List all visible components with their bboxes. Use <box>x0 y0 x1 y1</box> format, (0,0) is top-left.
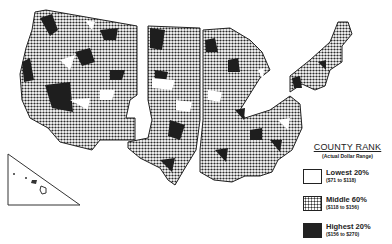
northeast-region <box>290 22 352 92</box>
legend-item-middle: Middle 60% ($118 to $156) <box>303 193 392 213</box>
legend-subtitle: (Actual Dollar Range) <box>303 153 392 159</box>
legend: COUNTY RANK (Actual Dollar Range) Lowest… <box>303 142 392 240</box>
swatch-middle <box>303 196 322 211</box>
swatch-lowest <box>303 169 322 184</box>
legend-range: ($118 to $156) <box>326 204 367 211</box>
plains-region <box>128 26 200 185</box>
legend-item-highest: Highest 20% ($156 to $270) <box>303 220 392 240</box>
legend-range: ($71 to $118) <box>326 177 369 184</box>
legend-item-lowest: Lowest 20% ($71 to $118) <box>303 166 392 186</box>
legend-title: COUNTY RANK <box>303 142 392 152</box>
legend-label: Lowest 20% <box>326 168 369 177</box>
west-region <box>20 10 137 150</box>
legend-range: ($156 to $270) <box>326 231 371 238</box>
legend-label: Highest 20% <box>326 222 371 231</box>
swatch-highest <box>303 223 322 238</box>
east-central-region <box>200 28 302 182</box>
hawaii-inset[interactable] <box>8 154 80 205</box>
legend-label: Middle 60% <box>326 195 367 204</box>
